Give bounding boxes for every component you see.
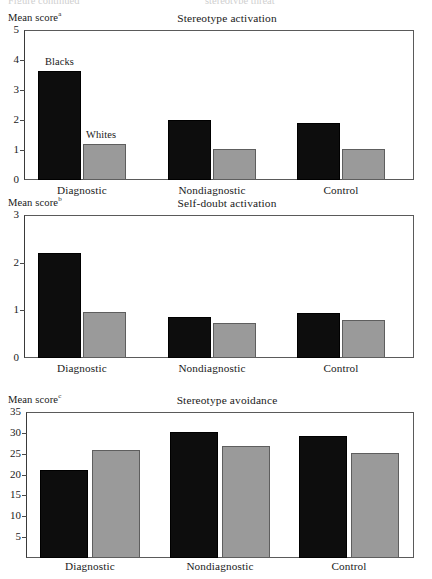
bar-control-blacks (299, 436, 347, 558)
x-axis-label-diagnostic: Diagnostic (22, 184, 142, 196)
plot-area: 0123 (0, 213, 432, 360)
bar-control-whites (342, 149, 385, 180)
plot-area: 012345BlacksWhites (0, 28, 432, 182)
bar-diagnostic-whites (92, 450, 140, 558)
y-axis-tick-mark (20, 60, 25, 61)
x-axis-label-diagnostic: Diagnostic (22, 362, 142, 374)
bar-nondiagnostic-whites (213, 149, 256, 180)
panel-header: Mean scoreb Self-doubt activation (0, 197, 432, 213)
y-axis-tick-label: 3 (0, 209, 19, 220)
bar-diagnostic-blacks (40, 470, 88, 558)
clipped-caption-line: Figure continued stereotype threat (0, 0, 432, 4)
x-axis-label-nondiagnostic: Nondiagnostic (152, 184, 272, 196)
y-axis-tick-label: 2 (0, 114, 19, 125)
x-axis-labels: DiagnosticNondiagnosticControl (0, 360, 432, 376)
bar-nondiagnostic-whites (213, 323, 256, 358)
y-axis-tick-label: 3 (0, 84, 19, 95)
y-axis-tick-mark (22, 433, 27, 434)
y-axis-tick-label: 20 (0, 469, 21, 480)
y-axis-tick-mark (20, 310, 25, 311)
series-label-whites: Whites (86, 129, 116, 140)
y-axis-tick-mark (20, 150, 25, 151)
bar-control-blacks (297, 313, 340, 358)
x-axis-labels: DiagnosticNondiagnosticControl (0, 182, 432, 198)
clipped-caption-right: stereotype threat (205, 0, 275, 4)
bar-diagnostic-blacks (38, 71, 81, 181)
y-axis-tick-mark (22, 516, 27, 517)
y-axis-tick-label: 1 (0, 144, 19, 155)
clipped-caption-left: Figure continued (8, 0, 79, 4)
bar-diagnostic-whites (83, 144, 126, 180)
panel-title: Self-doubt activation (0, 197, 432, 209)
bar-control-whites (351, 453, 399, 558)
y-axis-tick-label: 5 (0, 531, 21, 542)
chart-panel-stereotype-activation: Mean scorea Stereotype activation 012345… (0, 12, 432, 198)
bar-nondiagnostic-whites (222, 446, 270, 558)
plot-area: 5101520253035 (0, 410, 432, 558)
y-axis-tick-mark (22, 537, 27, 538)
panel-title: Stereotype avoidance (0, 394, 432, 406)
y-axis-tick-label: 35 (0, 406, 21, 417)
y-axis-tick-label: 30 (0, 427, 21, 438)
x-axis-label-control: Control (281, 184, 401, 196)
y-axis-tick-label: 10 (0, 510, 21, 521)
y-axis-tick-label: 25 (0, 448, 21, 459)
y-axis-tick-label: 5 (0, 24, 19, 35)
x-axis-label-control: Control (281, 362, 401, 374)
y-axis-tick-mark (22, 454, 27, 455)
bar-nondiagnostic-blacks (170, 432, 218, 558)
bar-nondiagnostic-blacks (168, 120, 211, 180)
x-axis-label-nondiagnostic: Nondiagnostic (160, 560, 280, 572)
y-axis-tick-mark (20, 263, 25, 264)
y-axis-tick-mark (22, 475, 27, 476)
y-axis-tick-label: 2 (0, 257, 19, 268)
panel-header: Mean scorea Stereotype activation (0, 12, 432, 28)
bar-control-whites (342, 320, 385, 358)
panel-title: Stereotype activation (0, 12, 432, 24)
chart-panel-stereotype-avoidance: Mean scorec Stereotype avoidance 5101520… (0, 394, 432, 574)
y-axis-tick-mark (20, 120, 25, 121)
x-axis-label-diagnostic: Diagnostic (30, 560, 150, 572)
x-axis-label-nondiagnostic: Nondiagnostic (152, 362, 272, 374)
bar-control-blacks (297, 123, 340, 180)
bar-diagnostic-blacks (38, 253, 81, 358)
y-axis-tick-mark (22, 495, 27, 496)
x-axis-label-control: Control (289, 560, 409, 572)
y-axis-tick-label: 15 (0, 489, 21, 500)
panel-header: Mean scorec Stereotype avoidance (0, 394, 432, 410)
series-label-blacks: Blacks (45, 56, 74, 67)
y-axis-tick-mark (20, 90, 25, 91)
chart-panel-self-doubt-activation: Mean scoreb Self-doubt activation 0123 D… (0, 197, 432, 376)
y-axis-tick-label: 1 (0, 304, 19, 315)
y-axis-tick-label: 4 (0, 54, 19, 65)
x-axis-labels: DiagnosticNondiagnosticControl (0, 558, 432, 574)
bar-nondiagnostic-blacks (168, 317, 211, 358)
bar-diagnostic-whites (83, 312, 126, 358)
